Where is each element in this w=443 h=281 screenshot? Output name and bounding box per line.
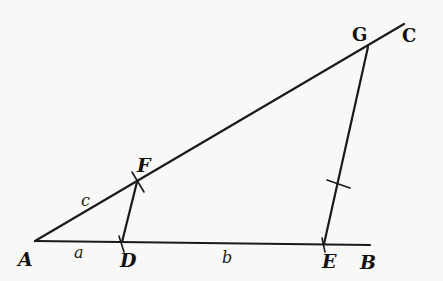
segment-fd — [122, 182, 137, 242]
label-point-c: C — [402, 25, 416, 46]
label-point-g: G — [352, 24, 367, 45]
segment-ge — [324, 47, 368, 244]
label-point-a: A — [16, 248, 33, 270]
geometry-figure: A D E B F G C a b c — [0, 0, 443, 281]
label-segment-a: a — [74, 243, 84, 262]
construction-diagram: A D E B F G C a b c — [0, 0, 443, 281]
label-segment-b: b — [222, 248, 232, 267]
label-point-e: E — [321, 250, 337, 272]
label-segment-c: c — [81, 191, 90, 210]
label-point-d: D — [119, 249, 137, 271]
line-ab — [35, 241, 370, 245]
label-point-f: F — [136, 154, 152, 176]
label-point-b: B — [359, 251, 376, 273]
